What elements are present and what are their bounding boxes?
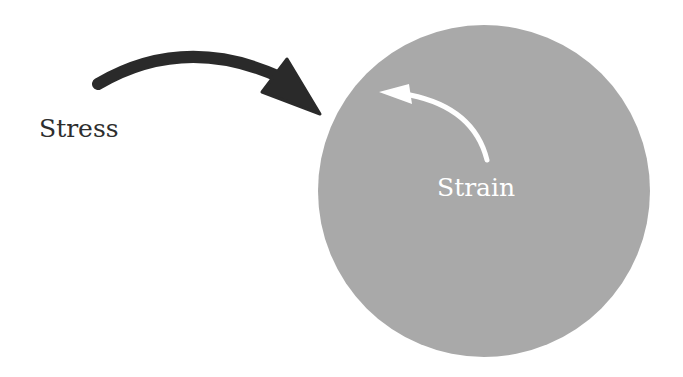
strain-label: Strain	[437, 175, 515, 200]
stress-label: Stress	[39, 116, 119, 141]
diagram-canvas	[0, 0, 683, 377]
stress-arrow-icon	[98, 57, 320, 114]
